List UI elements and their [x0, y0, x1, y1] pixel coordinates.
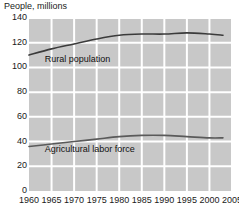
x-axis-tick-labels: 1960196519701975198019851990199520002005 [0, 0, 239, 213]
series-annotation-1: Agricultural labor force [45, 144, 135, 154]
chart-container: People, millions 020406080100120140 1960… [0, 0, 239, 213]
series-annotation-0: Rural population [45, 54, 111, 64]
x-tick-label: 2005 [219, 196, 239, 205]
